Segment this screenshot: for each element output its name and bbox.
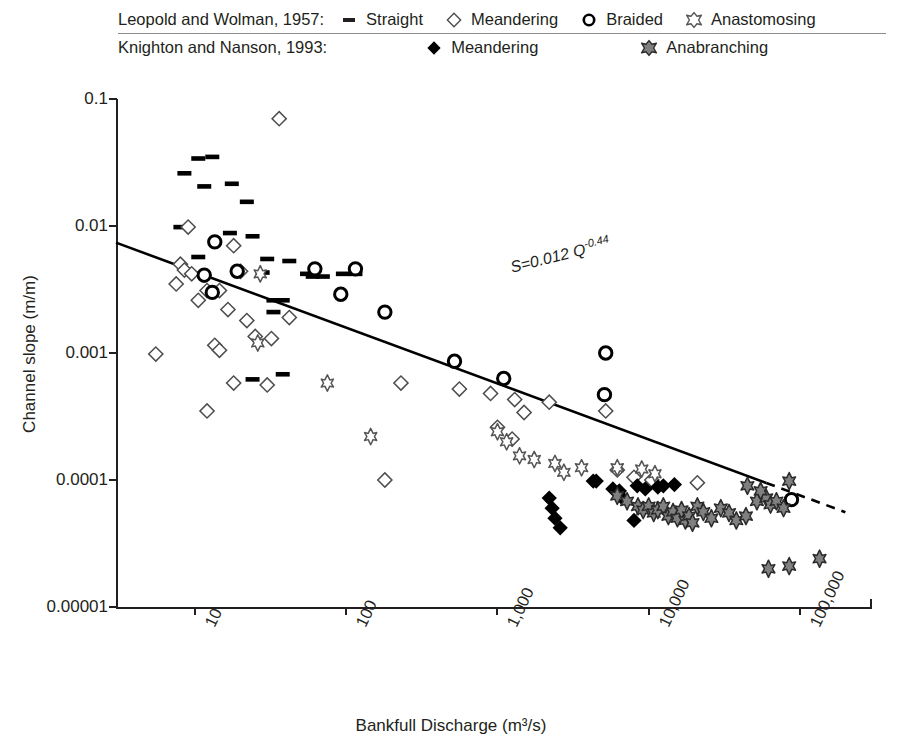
data-point [600, 347, 612, 359]
x-axis-end-tick [870, 599, 872, 609]
data-point [282, 259, 296, 264]
open-circle-icon [578, 10, 600, 30]
x-tick-label: 10 [201, 605, 226, 630]
y-tick-label: 0.00001 [47, 597, 108, 617]
data-point [197, 184, 211, 189]
data-point [254, 266, 266, 282]
data-point [741, 477, 754, 494]
series-meandering-1 [149, 112, 705, 490]
data-point [282, 311, 296, 325]
legend-label-anastomosing: Anastomosing [711, 10, 816, 29]
data-point [336, 272, 350, 277]
y-axis-tick [109, 352, 117, 354]
data-point [240, 314, 254, 328]
data-point [517, 405, 531, 419]
y-axis-tick [109, 225, 117, 227]
data-point [598, 388, 610, 400]
data-point [191, 255, 205, 260]
legend-item-meandering-kn: Meandering [423, 38, 538, 58]
data-point [191, 293, 205, 307]
data-point [498, 372, 510, 384]
data-point [227, 239, 241, 253]
open-cross-x-icon [683, 10, 705, 30]
series-braided-2 [198, 236, 798, 506]
y-axis-title: Channel slope (m/m) [20, 275, 40, 433]
figure-root: Leopold and Wolman, 1957: Straight Meand… [0, 0, 902, 756]
data-point [198, 269, 210, 281]
data-point [528, 451, 540, 467]
filled-diamond-icon [423, 38, 445, 58]
data-point [667, 477, 682, 492]
data-point [365, 428, 377, 444]
data-point [309, 263, 321, 275]
data-point [513, 448, 525, 464]
data-point [599, 404, 613, 418]
data-point [452, 382, 466, 396]
data-point [260, 257, 274, 262]
y-axis-tick [109, 479, 117, 481]
data-point [205, 155, 219, 160]
data-point [260, 378, 274, 392]
legend-label-meandering-lw: Meandering [471, 10, 558, 29]
data-point [690, 476, 704, 490]
x-axis-tick [496, 607, 498, 615]
data-point [209, 236, 221, 248]
data-point [379, 306, 391, 318]
data-point [169, 277, 183, 291]
legend-item-anastomosing: Anastomosing [683, 10, 816, 30]
legend-item-braided: Braided [578, 10, 663, 30]
data-point [349, 263, 361, 275]
data-point [448, 355, 460, 367]
data-point [266, 310, 280, 315]
data-point [321, 375, 333, 391]
legend-row-leopold-wolman: Leopold and Wolman, 1957: Straight Meand… [118, 6, 886, 34]
data-point [783, 473, 796, 490]
x-axis-tick [194, 607, 196, 615]
data-point [246, 234, 260, 239]
legend-label-straight: Straight [366, 10, 423, 29]
x-axis-tick [799, 607, 801, 615]
y-axis-tick [109, 606, 117, 608]
legend-row-knighton-nanson: Knighton and Nanson, 1993: Meandering An… [118, 34, 886, 61]
x-axis-tick-labels: 101001,00010,000100,000 [116, 622, 876, 712]
data-point [221, 302, 235, 316]
legend-source-label: Leopold and Wolman, 1957: [118, 10, 324, 29]
legend-item-straight: Straight [338, 10, 423, 30]
x-axis-tick [345, 607, 347, 615]
data-point [181, 220, 195, 234]
data-overlay [116, 99, 872, 609]
legend-item-meandering-lw: Meandering [443, 10, 558, 30]
legend-label-braided: Braided [606, 10, 663, 29]
data-point [231, 265, 243, 277]
series-anastomosing-3 [252, 266, 661, 482]
data-point [589, 473, 604, 488]
y-axis-tick-labels: 0.10.010.0010.00010.00001 [0, 99, 108, 609]
x-axis-tick [648, 607, 650, 615]
trendline-solid [116, 243, 766, 483]
legend-item-anabranching: Anabranching [638, 38, 768, 58]
y-tick-label: 0.001 [65, 343, 108, 363]
data-point [177, 171, 191, 176]
x-axis-title: Bankfull Discharge (m³/s) [0, 716, 902, 736]
data-point [246, 377, 260, 382]
data-point [223, 231, 237, 236]
y-axis-tick [109, 98, 117, 100]
legend-label-meandering-kn: Meandering [451, 38, 538, 57]
y-tick-label: 0.0001 [56, 470, 108, 490]
data-point [762, 560, 775, 577]
data-point [200, 404, 214, 418]
data-point [394, 376, 408, 390]
chart-legend: Leopold and Wolman, 1957: Straight Meand… [118, 6, 886, 61]
data-point [272, 112, 286, 126]
data-point [276, 372, 290, 377]
data-point [240, 200, 254, 205]
legend-label-anabranching: Anabranching [666, 38, 768, 57]
data-point [378, 473, 392, 487]
open-diamond-icon [443, 10, 465, 30]
data-point [483, 386, 497, 400]
data-point [626, 513, 641, 528]
data-point [783, 557, 796, 574]
plot-area: S=0.012 Q-0.44 [116, 99, 872, 609]
straight-bar-icon [338, 10, 360, 30]
data-point [206, 286, 218, 298]
